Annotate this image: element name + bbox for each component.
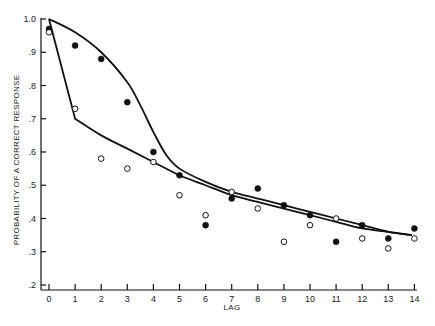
x-tick-label: 14 [409, 294, 419, 304]
x-tick-label: 8 [255, 294, 260, 304]
filled-data-point [333, 239, 339, 245]
y-axis-title: PROBABILITY OF A CORRECT RESPONSE [12, 75, 21, 246]
filled-data-point [150, 149, 156, 155]
line-scatter-chart: .2.3.4.5.6.7.8.91.0 01234567891011121314… [0, 0, 435, 326]
x-tick-label: 10 [305, 294, 315, 304]
x-tick-label: 9 [281, 294, 286, 304]
x-tick-label: 6 [203, 294, 208, 304]
filled-data-point [255, 186, 261, 192]
axes [41, 18, 417, 290]
open-data-point [151, 159, 157, 165]
x-tick-label: 0 [46, 294, 51, 304]
x-tick-label: 11 [331, 294, 340, 304]
filled-data-point [385, 235, 391, 241]
lower-fitted-curve [49, 19, 412, 235]
y-tick-label: .3 [28, 247, 36, 257]
x-tick-label: 5 [177, 294, 182, 304]
open-data-point [203, 212, 209, 218]
x-tick-label: 3 [125, 294, 130, 304]
filled-data-point [124, 99, 130, 105]
open-data-point [46, 30, 52, 36]
filled-data-point [411, 225, 417, 231]
filled-data-point [98, 56, 104, 62]
open-data-point [255, 206, 261, 212]
x-tick-label: 13 [383, 294, 393, 304]
filled-data-point [307, 212, 313, 218]
open-data-point [412, 236, 418, 242]
open-data-point [177, 192, 183, 198]
y-tick-label: .7 [28, 114, 36, 124]
open-data-point [307, 222, 313, 228]
open-data-point [72, 106, 78, 112]
data-points [46, 26, 417, 251]
y-tick-label: .8 [28, 81, 36, 91]
open-data-point [359, 236, 365, 242]
filled-data-point [177, 172, 183, 178]
y-tick-label: .5 [28, 180, 36, 190]
filled-data-point [203, 222, 209, 228]
x-tick-label: 4 [151, 294, 156, 304]
y-tick-label: .4 [28, 214, 36, 224]
x-tick-label: 12 [357, 294, 367, 304]
open-data-point [333, 216, 339, 222]
open-data-point [98, 156, 104, 162]
x-axis-title: LAG [224, 303, 241, 312]
upper-fitted-curve [49, 19, 412, 235]
filled-data-point [281, 202, 287, 208]
open-data-point [125, 166, 131, 172]
filled-data-point [359, 222, 365, 228]
y-axis-ticks: .2.3.4.5.6.7.8.91.0 [23, 14, 46, 290]
y-tick-label: .9 [28, 47, 36, 57]
x-tick-label: 1 [73, 294, 78, 304]
x-axis-ticks: 01234567891011121314 [46, 284, 419, 304]
filled-data-point [72, 43, 78, 49]
y-tick-label: 1.0 [23, 14, 36, 24]
x-tick-label: 2 [99, 294, 104, 304]
filled-data-point [229, 196, 235, 202]
open-data-point [281, 239, 287, 245]
y-tick-label: .6 [28, 147, 36, 157]
open-data-point [229, 189, 235, 195]
open-data-point [386, 246, 392, 252]
fitted-curves [49, 19, 412, 235]
y-tick-label: .2 [28, 280, 36, 290]
